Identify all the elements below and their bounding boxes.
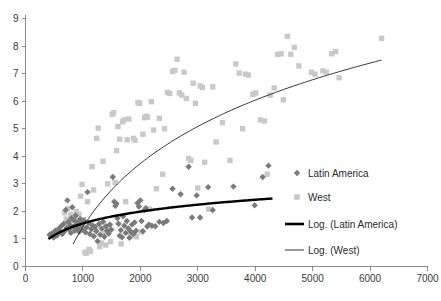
data-point-square [213,139,218,144]
data-point-square [78,194,83,199]
data-point-square [115,124,120,129]
x-tick-label: 3000 [187,273,210,284]
data-point-square [278,51,283,56]
data-point-diamond [205,184,211,190]
data-point-square [195,185,200,190]
legend-label-latin-america: Latin America [308,168,369,179]
data-point-diamond [230,183,236,189]
data-point-square [95,125,100,130]
x-axis-ticks: 01000200030004000500060007000 [23,267,439,284]
legend-marker-latin-america [294,170,300,176]
data-point-square [265,171,270,176]
data-point-square [174,57,179,62]
data-point-diamond [189,214,195,220]
data-point-diamond [169,186,175,192]
plot-area: 01000200030004000500060007000 0123456789 [13,13,439,283]
data-point-square [246,72,251,77]
data-point-diamond [84,189,90,195]
x-tick-label: 4000 [244,273,267,284]
data-point-square [157,116,162,121]
west-trendline [73,60,381,244]
data-point-square [79,182,84,187]
data-point-square [89,164,94,169]
y-tick-label: 5 [13,123,19,134]
y-tick-label: 3 [13,178,19,189]
data-point-square [285,34,290,39]
data-point-square [140,132,145,137]
data-point-square [167,91,172,96]
data-point-square [181,70,186,75]
data-point-diamond [177,191,183,197]
x-tick-label: 0 [23,273,29,284]
x-tick-label: 2000 [129,273,152,284]
data-point-square [137,101,142,106]
data-point-square [145,114,150,119]
data-point-square [240,126,245,131]
data-point-square [85,199,90,204]
data-point-square [121,117,126,122]
data-point-square [292,45,297,50]
data-point-square [126,116,131,121]
data-point-square [114,148,119,153]
data-point-square [179,92,184,97]
data-point-diamond [193,192,199,198]
data-point-square [233,61,238,66]
y-tick-label: 0 [13,261,19,272]
data-point-square [117,136,122,141]
chart-canvas: 01000200030004000500060007000 0123456789… [0,0,441,301]
data-point-square [190,81,195,86]
data-point-square [333,49,338,54]
data-point-square [253,90,258,95]
data-point-diamond [197,214,203,220]
data-point-square [94,136,99,141]
legend-label-log-latin-america: Log. (Latin America) [308,219,398,230]
y-tick-label: 2 [13,206,19,217]
legend-label-log-west: Log. (West) [308,245,360,256]
x-tick-label: 1000 [72,273,95,284]
chart-legend: Latin AmericaWestLog. (Latin America)Log… [285,168,398,256]
data-point-square [271,85,276,90]
data-point-diamond [265,162,271,168]
data-point-square [288,52,293,57]
data-point-square [184,96,189,101]
data-point-square [162,126,167,131]
data-point-square [312,71,317,76]
data-point-square [154,186,159,191]
data-point-diamond [115,221,121,227]
scatter-chart: 01000200030004000500060007000 0123456789… [0,0,441,301]
data-point-diamond [64,197,70,203]
data-point-square [111,110,116,115]
data-point-square [123,199,128,204]
data-point-square [160,171,165,176]
data-point-square [188,158,193,163]
data-point-square [236,70,241,75]
y-axis-ticks: 0123456789 [13,13,26,272]
data-point-square [172,68,177,73]
legend-marker-west [294,194,300,200]
data-point-diamond [185,164,191,170]
data-point-square [220,120,225,125]
data-point-square [296,63,301,68]
x-tick-label: 7000 [416,273,439,284]
x-tick-label: 6000 [359,273,382,284]
data-point-square [281,97,286,102]
data-point-square [108,239,113,244]
west-trend-path [73,60,381,244]
y-tick-label: 6 [13,96,19,107]
legend-label-west: West [308,192,331,203]
y-tick-label: 8 [13,41,19,52]
data-point-square [88,249,93,254]
data-point-square [202,160,207,165]
data-point-square [336,75,341,80]
data-point-square [324,70,329,75]
y-tick-label: 9 [13,13,19,24]
data-point-square [132,138,137,143]
x-tick-label: 5000 [302,273,325,284]
data-point-diamond [138,218,144,224]
data-point-square [149,99,154,104]
data-point-square [124,137,129,142]
data-point-square [262,118,267,123]
data-point-square [200,85,205,90]
data-point-square [227,158,232,163]
y-tick-label: 1 [13,234,19,245]
